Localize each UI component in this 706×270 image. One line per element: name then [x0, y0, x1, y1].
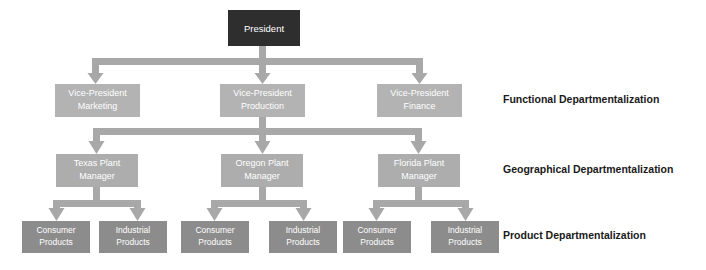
node-oregon-industrial[interactable]: Industrial Products: [269, 221, 337, 253]
connector-bus-florida-products: [373, 200, 469, 207]
arrowhead-florida-plant: [411, 141, 427, 154]
node-vp-production-box: [220, 84, 305, 117]
connector-president-to-vps: [88, 46, 428, 84]
node-florida-plant[interactable]: Florida Plant Manager: [378, 154, 460, 187]
tier-label-geographical: Geographical Departmentalization: [503, 163, 673, 175]
node-texas-plant-box: [56, 154, 138, 187]
node-florida-consumer[interactable]: Consumer Products: [343, 221, 411, 253]
connector-stem-oregon: [259, 187, 266, 202]
node-oregon-consumer-box: [181, 221, 249, 253]
node-texas-industrial[interactable]: Industrial Products: [99, 221, 167, 253]
arrowhead-vp-production: [255, 73, 271, 84]
connector-texas-to-products: [49, 187, 146, 221]
connector-drop-oregon-plant: [259, 128, 266, 142]
node-florida-consumer-box: [343, 221, 411, 253]
arrowhead-texas-industrial: [130, 208, 146, 221]
org-chart-canvas: President Vice-President Marketing Vice-…: [0, 0, 706, 270]
node-oregon-consumer[interactable]: Consumer Products: [181, 221, 249, 253]
connector-drop-texas-industrial: [134, 200, 141, 209]
node-president[interactable]: President: [228, 10, 300, 46]
node-president-box: [228, 10, 300, 46]
connector-bus-vps: [92, 58, 423, 65]
arrowhead-vp-marketing: [88, 73, 104, 84]
node-oregon-industrial-box: [269, 221, 337, 253]
arrowhead-florida-consumer: [369, 208, 385, 221]
arrowhead-oregon-industrial: [296, 208, 312, 221]
connector-stem-texas: [93, 187, 100, 202]
arrowhead-oregon-consumer: [207, 208, 223, 221]
connector-bus-texas-products: [53, 200, 141, 207]
connector-drop-oregon-industrial: [300, 200, 307, 209]
connector-drop-florida-plant: [415, 128, 422, 142]
connector-drop-florida-consumer: [373, 200, 380, 209]
node-florida-industrial[interactable]: Industrial Products: [431, 221, 499, 253]
tier-label-product: Product Departmentalization: [503, 229, 646, 241]
arrowhead-vp-finance: [412, 73, 428, 84]
connector-bus-oregon-products: [211, 200, 307, 207]
tier-label-functional: Functional Departmentalization: [503, 93, 659, 105]
node-texas-industrial-box: [99, 221, 167, 253]
connector-oregon-to-products: [207, 187, 312, 221]
node-vp-finance-box: [377, 84, 462, 117]
connector-drop-vp-production: [259, 58, 266, 74]
node-vp-marketing[interactable]: Vice-President Marketing: [55, 84, 140, 117]
arrowhead-texas-consumer: [49, 208, 65, 221]
connector-drop-vp-marketing: [92, 58, 99, 74]
node-florida-plant-box: [378, 154, 460, 187]
node-vp-finance[interactable]: Vice-President Finance: [377, 84, 462, 117]
node-oregon-plant[interactable]: Oregon Plant Manager: [221, 154, 303, 187]
connector-bus-plants: [93, 128, 422, 135]
connector-stem-vp-production: [259, 116, 266, 130]
node-texas-plant[interactable]: Texas Plant Manager: [56, 154, 138, 187]
connector-drop-texas-consumer: [53, 200, 60, 209]
arrowhead-texas-plant: [89, 141, 105, 154]
node-texas-consumer-box: [22, 221, 90, 253]
connector-drop-texas-plant: [93, 128, 100, 142]
node-oregon-plant-box: [221, 154, 303, 187]
connector-drop-vp-finance: [416, 58, 423, 74]
arrowhead-oregon-plant: [255, 141, 271, 154]
connector-stem-florida: [415, 187, 422, 202]
connector-florida-to-products: [369, 187, 474, 221]
node-vp-production[interactable]: Vice-President Production: [220, 84, 305, 117]
node-florida-industrial-box: [431, 221, 499, 253]
connector-drop-oregon-consumer: [211, 200, 218, 209]
connector-drop-florida-industrial: [462, 200, 469, 209]
arrowhead-florida-industrial: [458, 208, 474, 221]
connector-vps-to-plants: [89, 116, 427, 154]
org-chart-diagram: President Vice-President Marketing Vice-…: [0, 0, 706, 270]
node-vp-marketing-box: [55, 84, 140, 117]
node-texas-consumer[interactable]: Consumer Products: [22, 221, 90, 253]
